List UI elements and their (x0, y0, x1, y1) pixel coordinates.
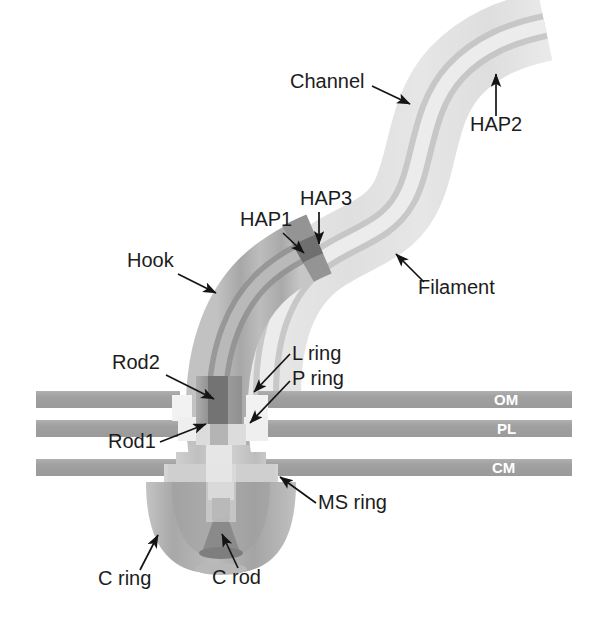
label-filament: Filament (418, 276, 495, 298)
label-hap2: HAP2 (470, 113, 522, 135)
label-hook: Hook (127, 249, 175, 271)
label-hap3: HAP3 (300, 187, 352, 209)
membrane-cm-left (36, 459, 178, 476)
leader-hook (178, 274, 216, 293)
label-channel: Channel (290, 70, 365, 92)
label-c-rod: C rod (212, 566, 261, 588)
label-l-ring: L ring (292, 342, 341, 364)
membrane-cm-right (265, 459, 572, 476)
membrane-pl-right (258, 420, 572, 437)
c-rod-translucent-shaft (206, 464, 236, 522)
label-c-ring: C ring (98, 567, 151, 589)
flagellum-diagram: OM PL CM (0, 0, 608, 625)
label-ms-ring: MS ring (318, 491, 387, 513)
label-p-ring: P ring (292, 367, 344, 389)
diagram-canvas: OM PL CM (0, 0, 608, 625)
membrane-label-pl: PL (497, 420, 516, 437)
hap-junction-channel (298, 244, 319, 254)
leader-c-ring (140, 535, 158, 570)
membrane-label-cm: CM (492, 459, 515, 476)
hap-junction-band (298, 244, 319, 254)
membrane-om-right (258, 391, 572, 408)
label-rod1: Rod1 (108, 430, 156, 452)
p-ring-right (244, 417, 268, 441)
membrane-om-left (36, 391, 180, 408)
c-rod-base (199, 547, 243, 559)
label-rod2: Rod2 (112, 351, 160, 373)
membrane-label-om: OM (494, 391, 518, 408)
rod2-core (208, 376, 228, 426)
label-hap1: HAP1 (240, 208, 292, 230)
